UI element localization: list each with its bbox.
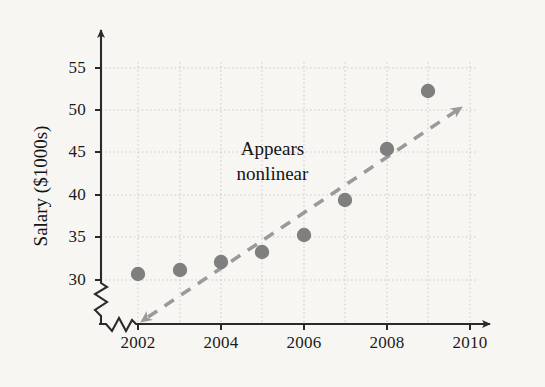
annotation-line-1: Appears (205, 136, 340, 161)
data-point (173, 263, 187, 277)
y-tick-label-45: 45 (46, 142, 86, 162)
data-point (421, 84, 435, 98)
x-axis-line (99, 318, 490, 331)
y-axis-title: Salary ($1000s) (30, 71, 52, 301)
x-tick-label-2008: 2008 (357, 333, 417, 353)
data-point (338, 193, 352, 207)
data-point (297, 228, 311, 242)
y-tick-label-40: 40 (46, 185, 86, 205)
x-tick-label-2006: 2006 (274, 333, 334, 353)
vertical-gridlines (138, 62, 470, 322)
data-point (131, 267, 145, 281)
data-point (214, 255, 228, 269)
data-point (380, 142, 394, 156)
x-tick-label-2010: 2010 (440, 333, 500, 353)
x-tick-label-2004: 2004 (191, 333, 251, 353)
annotation-line-2: nonlinear (205, 161, 340, 186)
y-tick-label-50: 50 (46, 100, 86, 120)
chart-figure: 55 50 45 40 35 30 2002 2004 2006 2008 20… (0, 0, 545, 387)
y-tick-label-55: 55 (46, 58, 86, 78)
data-point (255, 245, 269, 259)
y-tick-label-30: 30 (46, 270, 86, 290)
y-tick-label-35: 35 (46, 227, 86, 247)
x-tick-label-2002: 2002 (108, 333, 168, 353)
plot-annotation: Appears nonlinear (205, 136, 340, 186)
